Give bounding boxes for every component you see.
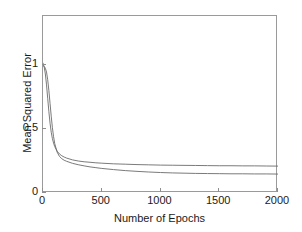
x-tick-mark [160, 188, 161, 192]
x-tick-label: 0 [18, 195, 66, 206]
y-tick-mark [42, 128, 46, 129]
x-tick-mark [218, 188, 219, 192]
y-tick-mark [42, 64, 46, 65]
plot-area [42, 15, 277, 192]
x-tick-label: 500 [77, 195, 125, 206]
plot-svg [43, 16, 278, 193]
x-tick-label: 1500 [194, 195, 242, 206]
x-tick-mark [101, 188, 102, 192]
y-tick-mark [42, 192, 46, 193]
series-group [43, 63, 278, 174]
series-line-curve-lower [43, 66, 278, 174]
chart-figure: 00.51 0500100015002000 Number of Epochs … [0, 0, 302, 232]
y-axis-label: Mean Squared Error [21, 28, 33, 178]
x-tick-label: 1000 [136, 195, 184, 206]
x-tick-mark [277, 188, 278, 192]
series-line-curve-upper [43, 63, 278, 166]
x-axis-label: Number of Epochs [42, 212, 277, 224]
x-tick-label: 2000 [253, 195, 301, 206]
x-tick-mark [42, 188, 43, 192]
